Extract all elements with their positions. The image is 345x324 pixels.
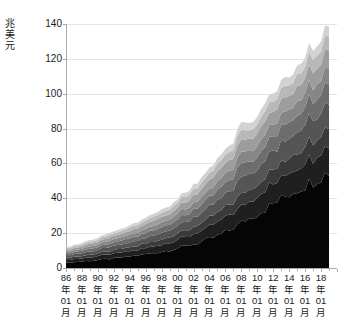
stacked-areas — [66, 24, 337, 268]
y-axis-tick-label: 140 — [28, 19, 62, 29]
x-axis-tick-label: 18年01月 — [312, 272, 330, 318]
x-axis-tick-label-part: 年 — [312, 284, 330, 296]
x-axis-tick-labels: 86年01月88年01月90年01月92年01月94年01月96年01月98年0… — [66, 272, 337, 324]
y-axis-unit-label: 兆 美 元 — [3, 18, 17, 51]
x-axis-tick-label-part: 18 — [312, 272, 330, 284]
y-axis-unit-char-3: 元 — [3, 40, 17, 51]
y-axis-tick-labels: 020406080100120140 — [22, 0, 62, 324]
area-chart: 兆 美 元 020406080100120140 86年01月88年01月90年… — [0, 0, 345, 324]
y-axis-tick-label: 120 — [28, 54, 62, 64]
y-axis-unit-char-2: 美 — [3, 29, 17, 40]
y-axis-tick-label: 40 — [28, 193, 62, 203]
plot-area — [66, 24, 337, 268]
y-axis-unit-char-1: 兆 — [3, 18, 17, 29]
y-axis-tick-label: 20 — [28, 228, 62, 238]
x-axis-tick-label-part: 01 — [312, 295, 330, 307]
x-axis-tick-label-part: 月 — [312, 307, 330, 319]
y-axis-tick-label: 80 — [28, 124, 62, 134]
y-axis-tick-label: 100 — [28, 89, 62, 99]
y-axis-tick-label: 60 — [28, 158, 62, 168]
